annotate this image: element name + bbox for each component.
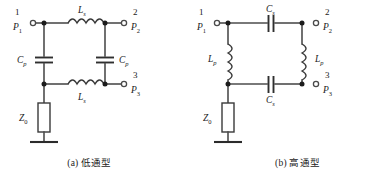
label-resistor-z0: Z0	[19, 113, 28, 125]
port-terminal-2[interactable]	[313, 20, 318, 25]
label-inductor-ls-bottom: Ls	[77, 92, 86, 104]
port-terminal-2[interactable]	[121, 20, 126, 25]
inductor-coil-bottom	[68, 80, 104, 84]
circuit-panel-high-pass: 1 P1 2 P2 3 P3 Cs Cs Lp Lp Z0 (b) 高通型	[184, 0, 367, 177]
port-3-number: 3	[133, 70, 138, 80]
port-2-number: 2	[133, 7, 138, 17]
label-inductor-lp-left: Lp	[207, 54, 217, 66]
label-inductor-lp-right: Lp	[314, 54, 324, 66]
figure-two-filter-topologies: 1 P1 2 P2 3 P3 Ls Ls Cp Cp Z0 (a) 低通型	[0, 0, 367, 177]
node-dot-bottom-right	[300, 82, 305, 87]
port-terminal-3[interactable]	[313, 81, 318, 86]
port-3-label: P3	[130, 85, 140, 97]
port-2-label: P2	[130, 22, 140, 34]
caption-high-pass: (b) 高通型	[184, 155, 367, 169]
port-1-number: 1	[199, 7, 204, 17]
component-capacitor-cp-left	[35, 58, 53, 63]
node-dot-top-right	[103, 21, 108, 26]
inductor-coil-left	[228, 44, 232, 80]
label-capacitor-cs-top: Cs	[266, 4, 275, 16]
port-2-number: 2	[325, 7, 330, 17]
node-dot-top-right	[300, 21, 305, 26]
component-capacitor-cp-right	[96, 58, 114, 63]
port-1-label: P1	[12, 22, 22, 34]
node-dot-bottom-left	[42, 82, 47, 87]
node-dot-top-left	[42, 21, 47, 26]
port-terminal-3[interactable]	[121, 81, 126, 86]
port-terminal-1[interactable]	[30, 20, 35, 25]
inductor-coil-top	[68, 19, 104, 23]
port-3-label: P3	[322, 85, 332, 97]
port-2-label: P2	[322, 22, 332, 34]
component-capacitor-cs-top	[269, 15, 274, 32]
port-1-number: 1	[15, 7, 20, 17]
component-inductor-lp-left	[228, 44, 232, 80]
node-dot-bottom-right	[103, 82, 108, 87]
component-inductor-ls-bottom	[68, 80, 104, 84]
circuit-panel-low-pass: 1 P1 2 P2 3 P3 Ls Ls Cp Cp Z0 (a) 低通型	[0, 0, 183, 177]
schematic-low-pass: 1 P1 2 P2 3 P3 Ls Ls Cp Cp Z0	[0, 0, 183, 150]
label-resistor-z0: Z0	[203, 113, 212, 125]
caption-low-pass: (a) 低通型	[0, 155, 183, 169]
node-dot-bottom-left	[226, 82, 231, 87]
label-capacitor-cs-bottom: Cs	[266, 95, 275, 107]
schematic-high-pass: 1 P1 2 P2 3 P3 Cs Cs Lp Lp Z0	[184, 0, 367, 150]
node-dot-top-left	[226, 21, 231, 26]
port-3-number: 3	[325, 70, 330, 80]
component-resistor-z0	[38, 103, 50, 132]
label-capacitor-cp-left: Cp	[17, 55, 27, 67]
component-inductor-lp-right	[302, 44, 306, 80]
inductor-coil-right	[302, 44, 306, 80]
label-capacitor-cp-right: Cp	[119, 55, 129, 67]
port-1-label: P1	[196, 22, 206, 34]
component-inductor-ls-top	[68, 19, 104, 23]
component-resistor-z0	[222, 103, 234, 132]
component-capacitor-cs-bottom	[269, 76, 274, 93]
label-inductor-ls-top: Ls	[77, 5, 86, 17]
port-terminal-1[interactable]	[214, 20, 219, 25]
